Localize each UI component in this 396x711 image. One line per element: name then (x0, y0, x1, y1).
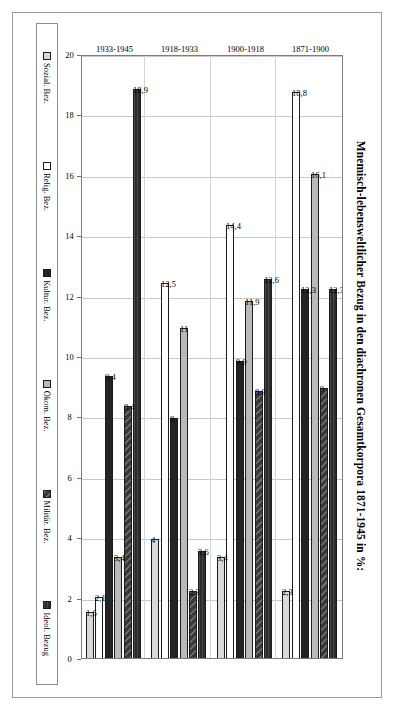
bar[interactable] (114, 557, 122, 659)
bar-value-label: 1,6 (86, 609, 97, 618)
bar[interactable] (245, 301, 253, 659)
bar-value-label: 18,9 (133, 86, 148, 95)
legend-swatch-icon (43, 162, 51, 170)
legend-item-label: Ideol. Bezug (43, 612, 52, 655)
bar[interactable] (198, 551, 206, 659)
plot-outer: 12,3916,112,318,82,312,68,911,99,914,43,… (81, 55, 343, 659)
bar-value-label: 9,9 (236, 358, 247, 367)
bar[interactable] (264, 279, 272, 659)
axis-tick-label: 18 (60, 111, 80, 120)
bar[interactable] (292, 92, 300, 659)
legend-item[interactable]: Kultur. Bez. (43, 269, 52, 321)
bar[interactable] (236, 361, 244, 659)
axis-tick-label: 16 (60, 172, 80, 181)
bar[interactable] (124, 406, 132, 659)
axis-tick-label: 4 (60, 534, 80, 543)
chart-outer-frame: Mnemisch-lebensweltlicher Bezug in den d… (12, 12, 382, 698)
legend-item[interactable]: Ideol. Bezug (43, 601, 52, 655)
bar[interactable] (311, 174, 319, 659)
bar[interactable] (255, 391, 263, 659)
axis-tick-label: 20 (60, 51, 80, 60)
category-separator (275, 56, 276, 658)
category-label: 1871-1900 (281, 45, 341, 54)
bar[interactable] (189, 591, 197, 659)
legend-item-label: Ökom. Bez. (43, 391, 52, 432)
legend-items: Ideol. BezugMilitär. Bez.Ökom. Bez.Kultu… (36, 23, 58, 685)
bar-value-label: 3,6 (198, 548, 209, 557)
legend-swatch-icon (43, 269, 51, 277)
bar[interactable] (95, 597, 103, 659)
bar-value-label: 12,6 (264, 276, 279, 285)
axis-tick-label: 8 (60, 413, 80, 422)
legend-swatch-icon (43, 380, 51, 388)
axis-tick-label: 14 (60, 232, 80, 241)
bar[interactable] (329, 289, 337, 659)
bar[interactable] (161, 283, 169, 659)
gridline (82, 177, 342, 178)
bar[interactable] (180, 328, 188, 659)
legend-item[interactable]: Militär. Bez. (43, 490, 52, 544)
gridline (82, 116, 342, 117)
legend-item-label: Militär. Bez. (43, 501, 52, 544)
bar[interactable] (282, 591, 290, 659)
axis-tick-label: 2 (60, 595, 80, 604)
category-separator (210, 56, 211, 658)
axis-tick-label: 10 (60, 353, 80, 362)
category-label: 1900-1918 (215, 45, 275, 54)
chart-title: Mnemisch-lebensweltlicher Bezug in den d… (355, 27, 367, 685)
bar-value-label: 2,3 (282, 588, 293, 597)
bar[interactable] (301, 289, 309, 659)
chart-legend: Ideol. BezugMilitär. Bez.Ökom. Bez.Kultu… (36, 23, 58, 685)
bar[interactable] (217, 557, 225, 659)
legend-item[interactable]: Ökom. Bez. (43, 380, 52, 432)
bar[interactable] (226, 225, 234, 659)
legend-swatch-icon (43, 52, 51, 60)
category-label: 1918-1933 (150, 45, 210, 54)
bar[interactable] (86, 612, 94, 659)
bar-chart: Mnemisch-lebensweltlicher Bezug in den d… (27, 27, 369, 685)
gridline (82, 56, 342, 57)
bar-value-label: 9 (320, 385, 324, 394)
bar-value-label: 16,1 (311, 171, 326, 180)
bar-value-label: 14,4 (226, 222, 241, 231)
legend-item-label: Sozial. Bez. (43, 63, 52, 104)
bar[interactable] (151, 539, 159, 659)
bar-value-label: 9,4 (105, 373, 116, 382)
bar-value-label: 18,8 (292, 89, 307, 98)
bar-value-label: 11 (180, 325, 188, 334)
axis-tick-label: 6 (60, 474, 80, 483)
bar-value-label: 2,3 (189, 588, 200, 597)
legend-item-label: Relig. Bez. (43, 173, 52, 211)
bar-value-label: 12,3 (301, 286, 316, 295)
category-separator (144, 56, 145, 658)
gridline (82, 237, 342, 238)
page-root: Mnemisch-lebensweltlicher Bezug in den d… (0, 0, 396, 711)
bar-value-label: 2,1 (95, 594, 106, 603)
axis-tick-label: 0 (60, 655, 80, 664)
bar-value-label: 12,3 (329, 286, 343, 295)
chart-rotation-stage: Mnemisch-lebensweltlicher Bezug in den d… (27, 27, 369, 685)
bar-value-label: 8,9 (255, 388, 266, 397)
bar-value-label: 8 (170, 415, 174, 424)
legend-item[interactable]: Sozial. Bez. (43, 52, 52, 104)
category-label: 1933-1945 (84, 45, 144, 54)
legend-swatch-icon (43, 601, 51, 609)
bar-value-label: 3,4 (114, 554, 125, 563)
axis-tick-label: 12 (60, 293, 80, 302)
bar[interactable] (105, 376, 113, 659)
bar-value-label: 12,5 (161, 280, 176, 289)
legend-swatch-icon (43, 490, 51, 498)
bar-value-label: 8,4 (124, 403, 135, 412)
bar-value-label: 3,4 (217, 554, 228, 563)
bar[interactable] (133, 89, 141, 659)
plot-area: 12,3916,112,318,82,312,68,911,99,914,43,… (81, 55, 343, 659)
bar-value-label: 4 (151, 536, 155, 545)
bar-value-label: 11,9 (245, 298, 260, 307)
legend-item-label: Kultur. Bez. (43, 280, 52, 321)
legend-item[interactable]: Relig. Bez. (43, 162, 52, 211)
bar[interactable] (170, 418, 178, 659)
bar[interactable] (320, 388, 328, 659)
